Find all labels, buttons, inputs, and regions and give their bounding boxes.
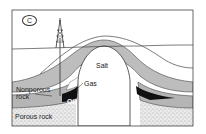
nonporous-rock-label-line2: rock: [16, 93, 29, 100]
nonporous-rock-label-line1: Nonporous: [16, 86, 50, 93]
oil-label: Oil: [67, 98, 76, 105]
porous-rock-label: Porous rock: [15, 113, 52, 120]
panel-letter-badge: C: [22, 15, 37, 26]
gas-label: Gas: [84, 80, 97, 87]
salt-label: Salt: [96, 62, 108, 69]
